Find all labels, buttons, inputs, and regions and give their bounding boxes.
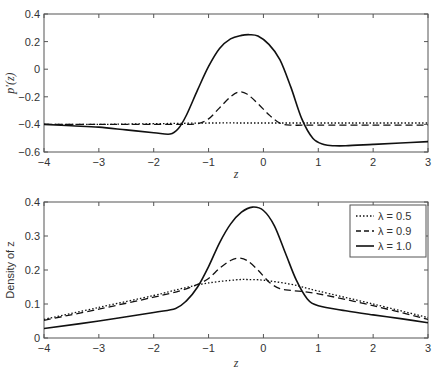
legend-label: λ = 0.9 [378,225,411,237]
x-tick-label: 1 [315,156,321,168]
x-tick-label: 0 [260,342,266,354]
y-tick-label: 0 [34,332,40,344]
x-tick-label: −2 [147,156,160,168]
y-tick-label: 0.3 [25,230,40,242]
series-line-dashed [44,258,428,320]
x-axis-label: z [233,356,239,370]
y-tick-label: −0.2 [18,91,40,103]
y-tick-label: 0.2 [25,36,40,48]
x-tick-label: 2 [370,342,376,354]
x-tick-label: −1 [202,156,215,168]
legend: λ = 0.5λ = 0.9λ = 1.0 [350,205,426,257]
x-tick-label: 2 [370,156,376,168]
x-tick-label: −1 [202,342,215,354]
x-tick-label: −2 [147,342,160,354]
y-axis-label: p'(z) [3,72,17,94]
y-tick-label: 0.4 [25,196,40,208]
series-line-dotted [44,279,428,319]
y-axis-label: Density of z [4,241,16,298]
y-tick-label: 0.4 [25,8,40,20]
y-tick-label: 0.1 [25,298,40,310]
x-tick-label: −3 [93,156,106,168]
x-tick-label: 1 [315,342,321,354]
top-panel: −4−3−2−10123−0.6−0.4−0.200.20.4zp'(z) [3,8,431,181]
bottom-panel: −4−3−2−1012300.10.20.30.4zDensity of zλ … [4,196,431,370]
y-tick-label: −0.6 [18,146,40,158]
y-tick-label: −0.4 [18,118,40,130]
series-line-dashed [44,92,428,125]
y-tick-label: 0 [34,63,40,75]
x-tick-label: 3 [425,342,431,354]
x-tick-label: 0 [260,156,266,168]
x-axis-label: z [233,167,239,181]
series-line-solid [44,35,428,146]
x-tick-label: −3 [93,342,106,354]
legend-label: λ = 0.5 [378,210,411,222]
y-tick-label: 0.2 [25,264,40,276]
legend-label: λ = 1.0 [378,240,411,252]
x-tick-label: 3 [425,156,431,168]
figure: −4−3−2−10123−0.6−0.4−0.200.20.4zp'(z)−4−… [0,0,439,374]
axes-frame [44,14,428,152]
